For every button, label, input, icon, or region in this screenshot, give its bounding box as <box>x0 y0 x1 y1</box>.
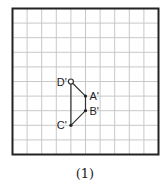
point-label: C' <box>57 119 67 131</box>
point-marker <box>84 109 87 112</box>
point-label: B' <box>90 105 99 117</box>
point-label: D' <box>57 76 67 88</box>
grid-lines <box>13 9 159 155</box>
segment <box>71 111 86 126</box>
point-marker <box>68 79 73 84</box>
quadrilateral-segments <box>71 82 86 126</box>
grid-figure: D'A'B'C' <box>0 0 162 187</box>
point-marker <box>84 95 87 98</box>
point-label: A' <box>90 90 99 102</box>
figure-caption: (1) <box>0 166 162 181</box>
points: D'A'B'C' <box>57 76 99 132</box>
point-marker <box>69 124 72 127</box>
